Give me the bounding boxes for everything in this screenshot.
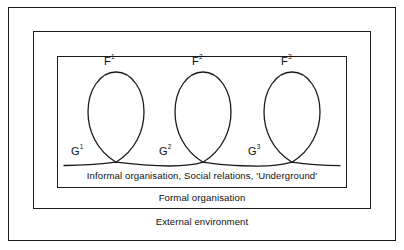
node-label-f2: F2: [192, 55, 202, 67]
node-label-g2: G2: [159, 145, 171, 157]
formal-organisation-label: Formal organisation: [33, 192, 371, 203]
node-label-f3: F3: [281, 55, 291, 67]
diagram-canvas: F1 F2 F3 G1 G2 G3 Informal organisation,…: [0, 0, 404, 250]
informal-organisation-label: Informal organisation, Social relations,…: [57, 170, 347, 181]
node-label-g3: G3: [248, 145, 260, 157]
node-label-f1: F1: [104, 55, 114, 67]
external-environment-label: External environment: [8, 216, 396, 227]
informal-organisation-box: [57, 56, 347, 188]
node-label-g1: G1: [71, 145, 83, 157]
